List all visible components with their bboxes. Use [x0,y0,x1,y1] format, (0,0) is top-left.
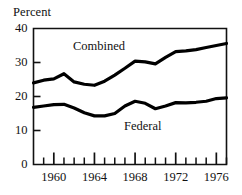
series-line-combined [34,43,227,85]
x-tick-label-1964: 1964 [74,171,114,184]
chart-figure: Percent 010203040 19601964196819721976 C… [0,0,242,195]
series-line-federal [34,98,227,116]
y-tick-label-10: 10 [2,124,28,137]
y-tick-label-30: 30 [2,56,28,69]
x-tick-label-1960: 1960 [34,171,74,184]
y-tick-label-0: 0 [2,158,28,171]
y-tick-label-40: 40 [2,22,28,35]
y-tick-label-20: 20 [2,90,28,103]
x-tick-label-1976: 1976 [196,171,236,184]
data-series-group [34,43,227,115]
series-label-federal: Federal [124,120,161,133]
y-axis-ticks [34,63,41,131]
x-tick-label-1972: 1972 [156,171,196,184]
x-tick-label-1968: 1968 [115,171,155,184]
line-chart-canvas [0,0,242,195]
x-axis-ticks [44,153,227,165]
series-label-combined: Combined [73,40,125,53]
